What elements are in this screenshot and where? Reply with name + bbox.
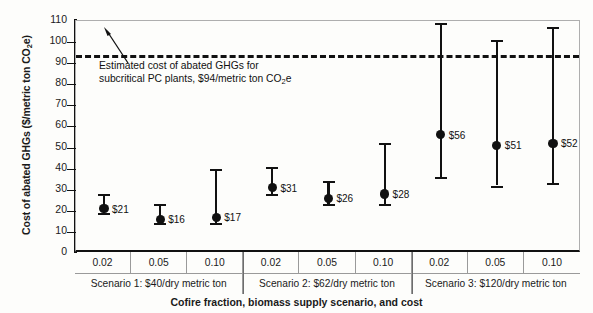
benchmark-annotation: Estimated cost of abated GHGs for subcri… [99,59,291,89]
benchmark-annotation-line2: subcritical PC plants, $94/metric ton CO… [99,72,291,88]
chart-figure: Cost of abated GHGs ($/metric ton CO2e) … [0,0,593,313]
y-axis-tick-label: 100 [49,34,67,46]
data-point-marker[interactable] [156,215,165,224]
cofire-fraction-label: 0.10 [356,252,412,273]
scenario-label: Scenario 3: $120/dry metric ton [412,273,580,294]
error-bar-cap-lower [98,213,110,215]
error-bar-cap-upper [210,169,222,171]
y-axis-tick [67,148,76,149]
y-axis-tick-label: 90 [55,55,67,67]
cofire-fraction-label: 0.05 [131,252,187,273]
benchmark-annotation-line2-pre: subcritical PC plants, $94/metric ton CO [99,73,282,84]
data-point-marker[interactable] [492,141,501,150]
y-axis-tick [67,42,76,43]
error-bar-cap-lower [266,194,278,196]
error-bar-cap-lower [435,177,447,179]
benchmark-line [76,55,579,58]
x-axis-category-bands: 0.020.050.100.020.050.100.020.050.10 Sce… [75,252,580,294]
error-bar-cap-upper [379,143,391,145]
data-point-value-label: $17 [224,212,241,223]
data-point-value-label: $51 [505,140,522,151]
data-point-value-label: $56 [449,129,466,140]
data-point-marker[interactable] [548,139,557,148]
data-point-value-label: $16 [168,214,185,225]
x-axis-title: Cofire fraction, biomass supply scenario… [0,296,593,308]
error-bar-cap-upper [435,23,447,25]
cofire-fraction-label: 0.02 [412,252,468,273]
y-axis-tick [67,63,76,64]
data-point-marker[interactable] [212,213,221,222]
data-point-value-label: $28 [393,188,410,199]
error-bar-cap-upper [98,194,110,196]
scenario-label: Scenario 1: $40/dry metric ton [75,273,243,294]
error-bar-cap-lower [491,186,503,188]
error-bar-whisker [552,27,554,183]
y-axis-tick-label: 0 [61,245,67,257]
cofire-fraction-label: 0.02 [75,252,131,273]
y-axis-tick [67,232,76,233]
error-bar-cap-lower [379,204,391,206]
error-bar-whisker [496,40,498,186]
y-axis-tick-label: 70 [55,97,67,109]
scenario-row: Scenario 1: $40/dry metric tonScenario 2… [75,273,580,294]
y-axis-tick-label: 40 [55,161,67,173]
y-axis-tick [67,105,76,106]
error-bar-cap-upper [266,167,278,169]
y-axis-tick-label: 60 [55,118,67,130]
data-point-marker[interactable] [436,130,445,139]
scenario-group-divider [243,252,244,294]
y-axis-tick-label: 80 [55,76,67,88]
error-bar-cap-lower [323,204,335,206]
data-point-value-label: $26 [337,193,354,204]
cofire-fraction-row: 0.020.050.100.020.050.100.020.050.10 [75,252,580,274]
y-axis-tick [67,190,76,191]
benchmark-annotation-line1: Estimated cost of abated GHGs for [99,59,291,72]
error-bar-cap-upper [491,40,503,42]
benchmark-annotation-line2-post: e [286,73,292,84]
data-point-marker[interactable] [380,189,389,198]
scenario-label: Scenario 2: $62/dry metric ton [243,273,411,294]
cofire-fraction-label: 0.10 [187,252,243,273]
data-point-marker[interactable] [99,204,108,213]
y-axis-tick [67,169,76,170]
cofire-fraction-label: 0.02 [243,252,299,273]
error-bar-cap-upper [547,27,559,29]
scenario-group-divider [412,252,413,294]
y-axis-tick-label: 50 [55,140,67,152]
y-axis-tick-label: 30 [55,182,67,194]
data-point-marker[interactable] [324,194,333,203]
y-axis-tick-label: 20 [55,203,67,215]
y-axis-tick-label: 10 [55,224,67,236]
plot-area: Estimated cost of abated GHGs for subcri… [75,20,580,252]
y-axis-tick-labels: 1101009080706050403020100 [0,0,73,313]
y-axis-tick [67,84,76,85]
data-point-value-label: $31 [280,182,297,193]
y-axis-tick [67,126,76,127]
cofire-fraction-label: 0.10 [524,252,580,273]
data-point-marker[interactable] [268,183,277,192]
error-bar-cap-lower [210,223,222,225]
y-axis-tick [67,211,76,212]
error-bar-whisker [440,23,442,177]
cofire-fraction-label: 0.05 [468,252,524,273]
y-axis-tick-label: 110 [50,13,67,25]
error-bar-cap-lower [547,183,559,185]
data-point-value-label: $21 [112,203,129,214]
cofire-fraction-label: 0.05 [299,252,355,273]
data-point-value-label: $52 [561,138,578,149]
error-bar-cap-upper [323,181,335,183]
error-bar-cap-upper [154,204,166,206]
